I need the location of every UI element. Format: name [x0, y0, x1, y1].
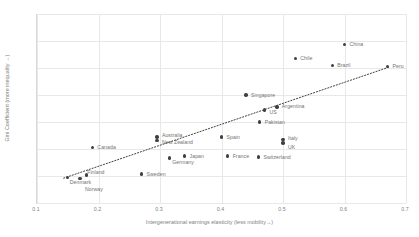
data-point-switzerland[interactable] — [257, 155, 260, 158]
data-label-canada: Canada — [97, 144, 115, 150]
data-label-japan: Japan — [190, 153, 204, 159]
data-point-argentina[interactable] — [275, 105, 278, 108]
data-point-uk[interactable] — [281, 141, 284, 144]
data-label-australia: Australia — [162, 132, 183, 138]
data-label-norway: Norway — [85, 186, 103, 192]
x-axis-title: Intergenerational earnings elasticity (l… — [0, 219, 419, 225]
data-label-switzerland: Switzerland — [263, 154, 290, 160]
data-label-singapore: Singapore — [251, 92, 275, 98]
data-point-germany[interactable] — [168, 156, 171, 159]
x-tick-label: 0.5 — [262, 206, 302, 212]
gridline-vertical — [406, 14, 407, 203]
data-point-france[interactable] — [226, 154, 229, 157]
data-label-peru: Peru — [393, 63, 404, 69]
data-point-japan[interactable] — [183, 154, 186, 157]
great-gatsby-curve-chart: DenmarkNorwayFinlandCanadaSwedenAustrali… — [0, 0, 419, 237]
data-point-sweden[interactable] — [140, 172, 143, 175]
data-point-chile[interactable] — [294, 57, 297, 60]
y-axis-title: Gini Coefficient (more inequality →) — [4, 3, 10, 193]
x-tick-label: 0.4 — [201, 206, 241, 212]
data-point-spain[interactable] — [220, 135, 223, 138]
data-label-sweden: Sweden — [147, 171, 166, 177]
data-point-brazil[interactable] — [331, 64, 334, 67]
data-label-new-zealand: New Zealand — [162, 139, 193, 145]
gridline-vertical — [37, 14, 38, 203]
x-tick-label: 0.6 — [324, 206, 364, 212]
data-point-china[interactable] — [343, 43, 346, 46]
data-label-france: France — [233, 153, 249, 159]
data-label-spain: Spain — [227, 134, 241, 140]
data-label-finland: Finland — [87, 169, 104, 175]
data-label-uk: UK — [288, 144, 295, 150]
data-label-germany: Germany — [172, 159, 194, 165]
data-label-us: US — [270, 109, 277, 115]
data-point-pakistan[interactable] — [258, 120, 261, 123]
plot-area: DenmarkNorwayFinlandCanadaSwedenAustrali… — [36, 14, 406, 204]
data-label-pakistan: Pakistan — [265, 119, 285, 125]
gridline-vertical — [222, 14, 223, 203]
data-label-argentina: Argentina — [282, 103, 305, 109]
data-label-china: China — [350, 41, 364, 47]
x-tick-label: 0.2 — [78, 206, 118, 212]
data-label-chile: Chile — [300, 55, 312, 61]
data-point-singapore[interactable] — [244, 93, 247, 96]
x-tick-label: 0.1 — [16, 206, 56, 212]
data-point-canada[interactable] — [91, 146, 94, 149]
data-point-us[interactable] — [263, 108, 266, 111]
x-tick-label: 0.7 — [385, 206, 419, 212]
gridline-horizontal — [37, 203, 406, 204]
data-label-italy: Italy — [288, 135, 298, 141]
x-tick-label: 0.3 — [139, 206, 179, 212]
data-point-new-zealand[interactable] — [155, 139, 158, 142]
data-label-brazil: Brazil — [337, 62, 350, 68]
